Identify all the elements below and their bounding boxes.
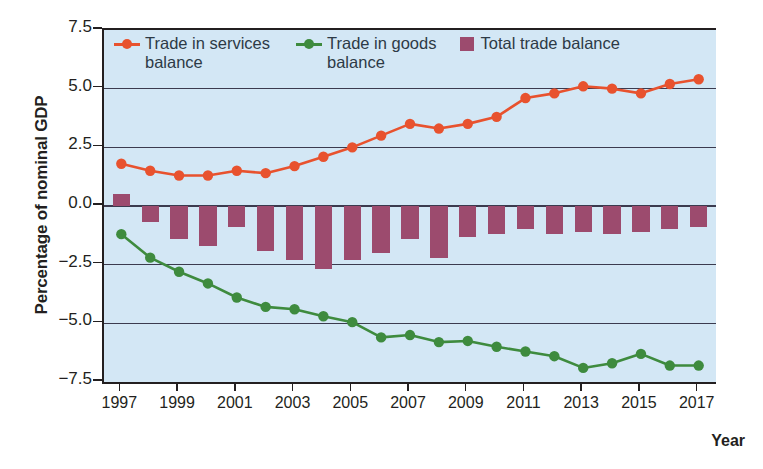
legend-label-goods-line2: balance <box>327 53 385 71</box>
data-point-marker <box>549 88 559 98</box>
data-point-marker <box>318 311 328 321</box>
legend-label-services: Trade in servicesbalance <box>145 34 270 73</box>
y-axis-tick-label: 0.0 <box>36 193 92 213</box>
x-axis-tick-label: 2005 <box>332 394 368 412</box>
y-axis-tick-mark <box>93 86 102 88</box>
data-point-marker <box>693 74 703 84</box>
legend-label-goods-line1: Trade in goods <box>327 34 436 52</box>
plot-area <box>102 28 716 384</box>
data-point-marker <box>116 229 126 239</box>
y-axis-tick-label: 7.5 <box>36 17 92 37</box>
x-axis-tick-label: 2001 <box>217 394 253 412</box>
y-axis-tick-mark <box>93 27 102 29</box>
data-point-marker <box>145 166 155 176</box>
data-point-marker <box>636 349 646 359</box>
y-axis-tick-label: 2.5 <box>36 134 92 154</box>
data-point-marker <box>116 159 126 169</box>
data-point-marker <box>578 81 588 91</box>
line-marker-icon <box>114 34 140 53</box>
y-axis-tick-mark <box>93 203 102 205</box>
chart-root: Percentage of nominal GDP Year 7.55.02.5… <box>0 0 763 469</box>
data-point-marker <box>318 152 328 162</box>
data-point-marker <box>174 170 184 180</box>
data-point-marker <box>665 360 675 370</box>
data-point-marker <box>232 292 242 302</box>
data-point-marker <box>376 130 386 140</box>
y-axis-tick-mark <box>93 321 102 323</box>
data-point-marker <box>260 302 270 312</box>
data-point-marker <box>463 336 473 346</box>
x-axis-title: Year <box>711 432 745 450</box>
data-point-marker <box>260 168 270 178</box>
data-point-marker <box>693 360 703 370</box>
data-point-marker <box>434 337 444 347</box>
data-point-marker <box>405 119 415 129</box>
data-point-marker <box>491 342 501 352</box>
data-point-marker <box>405 330 415 340</box>
data-point-marker <box>578 363 588 373</box>
x-axis-tick-label: 2007 <box>390 394 426 412</box>
x-axis-tick-label: 1999 <box>159 394 195 412</box>
data-point-marker <box>203 278 213 288</box>
data-point-marker <box>463 119 473 129</box>
legend-label-total: Total trade balance <box>480 34 619 53</box>
legend-label-services-line1: Trade in services <box>145 34 270 52</box>
data-point-marker <box>203 170 213 180</box>
data-point-marker <box>145 252 155 262</box>
data-point-marker <box>520 93 530 103</box>
data-point-marker <box>289 161 299 171</box>
legend-item-goods[interactable]: Trade in goodsbalance <box>296 34 436 73</box>
data-point-marker <box>174 267 184 277</box>
square-swatch-icon <box>460 37 474 51</box>
y-axis-tick-mark <box>93 262 102 264</box>
y-axis-tick-mark <box>93 145 102 147</box>
data-point-marker <box>376 332 386 342</box>
series-line <box>121 234 698 368</box>
data-point-marker <box>347 317 357 327</box>
legend-label-goods: Trade in goodsbalance <box>327 34 436 73</box>
y-axis-tick-label: −7.5 <box>36 369 92 389</box>
data-point-marker <box>607 83 617 93</box>
data-point-marker <box>549 351 559 361</box>
data-point-marker <box>520 346 530 356</box>
x-axis-tick-label: 2017 <box>679 394 715 412</box>
data-point-marker <box>607 358 617 368</box>
legend: Trade in servicesbalance Trade in goodsb… <box>114 34 620 73</box>
legend-dot-icon <box>304 39 314 49</box>
legend-label-services-line2: balance <box>145 53 203 71</box>
x-axis-tick-label: 2009 <box>448 394 484 412</box>
x-axis-tick-label: 2003 <box>275 394 311 412</box>
data-point-marker <box>636 88 646 98</box>
x-axis-tick-label: 2011 <box>506 394 540 412</box>
line-series-layer <box>104 30 716 382</box>
data-point-marker <box>665 79 675 89</box>
y-axis-tick-label: 5.0 <box>36 76 92 96</box>
y-axis-tick-mark <box>93 379 102 381</box>
x-axis-tick-label: 2013 <box>563 394 599 412</box>
data-point-marker <box>232 166 242 176</box>
y-axis-tick-label: −2.5 <box>36 252 92 272</box>
x-axis-tick-label: 2015 <box>621 394 657 412</box>
legend-dot-icon <box>122 39 132 49</box>
y-axis-tick-label: −5.0 <box>36 310 92 330</box>
data-point-marker <box>347 142 357 152</box>
data-point-marker <box>491 112 501 122</box>
x-axis-tick-label: 1997 <box>102 394 138 412</box>
legend-item-services[interactable]: Trade in servicesbalance <box>114 34 270 73</box>
legend-item-total[interactable]: Total trade balance <box>460 34 619 53</box>
data-point-marker <box>289 304 299 314</box>
data-point-marker <box>434 123 444 133</box>
line-marker-icon <box>296 34 322 53</box>
